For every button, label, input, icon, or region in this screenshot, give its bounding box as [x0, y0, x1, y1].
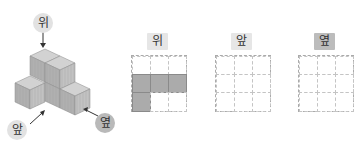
grid-cell[interactable] [168, 92, 187, 111]
top-view-label: 위 [147, 33, 168, 50]
front-view-grid [215, 55, 271, 112]
grid-cell[interactable] [216, 74, 235, 93]
cube [15, 76, 45, 109]
grid-cell[interactable] [252, 74, 271, 93]
grid-cell[interactable] [234, 92, 253, 111]
top-view-grid [131, 55, 187, 112]
grid-cell-filled[interactable] [168, 74, 187, 93]
grid-cell[interactable] [317, 74, 336, 93]
grid-cell[interactable] [150, 92, 169, 111]
top-direction-label: 위 [33, 13, 53, 33]
grid-cell[interactable] [299, 74, 318, 93]
grid-cell[interactable] [234, 74, 253, 93]
grid-cell[interactable] [216, 92, 235, 111]
grid-cell[interactable] [234, 56, 253, 75]
grid-cell-filled[interactable] [132, 74, 151, 93]
grid-cell[interactable] [335, 92, 354, 111]
grid-cell[interactable] [252, 92, 271, 111]
front-view-label: 앞 [231, 33, 252, 50]
grid-cell[interactable] [132, 56, 151, 75]
grid-cell[interactable] [252, 56, 271, 75]
grid-cell[interactable] [168, 56, 187, 75]
side-direction-label: 옆 [95, 113, 115, 133]
grid-cell-filled[interactable] [150, 74, 169, 93]
side-view-grid [298, 55, 354, 112]
grid-cell[interactable] [335, 56, 354, 75]
grid-cell[interactable] [216, 56, 235, 75]
side-view-label: 옆 [314, 33, 335, 50]
grid-cell[interactable] [150, 56, 169, 75]
grid-cell[interactable] [299, 92, 318, 111]
grid-cell[interactable] [335, 74, 354, 93]
front-direction-label: 앞 [7, 120, 27, 140]
grid-cell[interactable] [317, 92, 336, 111]
grid-cell-filled[interactable] [132, 92, 151, 111]
grid-cell[interactable] [317, 56, 336, 75]
grid-cell[interactable] [299, 56, 318, 75]
